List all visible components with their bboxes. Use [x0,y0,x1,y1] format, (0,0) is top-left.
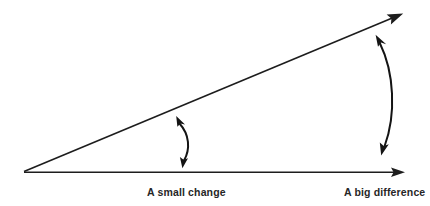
diverging-ray-line [24,18,394,172]
small-gap-arc [176,116,188,168]
baseline-ray [24,167,405,177]
diverging-ray [24,13,403,171]
label-small-change: A small change [147,187,226,198]
big-gap-arc-curve [380,44,392,147]
diagram-canvas: A small change A big difference [0,0,430,206]
label-big-difference: A big difference [344,187,425,198]
small-gap-arc-curve [180,124,189,161]
big-gap-arc [376,35,393,156]
diagram-svg [0,0,430,206]
